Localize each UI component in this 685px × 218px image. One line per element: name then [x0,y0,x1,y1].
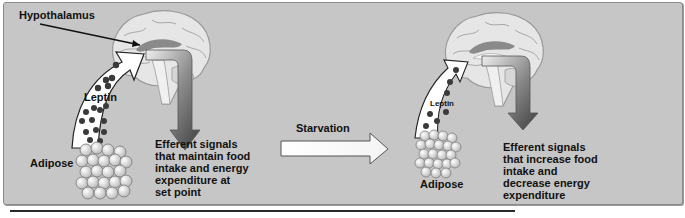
adipose-label: Adipose [30,157,73,169]
starvation-label: Starvation [296,122,350,134]
leptin-label-right: Leptin [430,99,454,108]
adipose-cells-right [415,130,461,178]
starvation-arrow [281,133,388,164]
adipose-cells [76,142,132,199]
adipose-label-right: Adipose [420,178,463,190]
hypothalamus-label: Hypothalamus [19,9,95,21]
efferent-signals-text: Efferent signals that maintain food inta… [155,138,250,198]
efferent-signals-text-right: Efferent signals that increase food inta… [503,141,598,201]
leptin-label: Leptin [84,91,117,103]
caption-divider [10,210,515,212]
